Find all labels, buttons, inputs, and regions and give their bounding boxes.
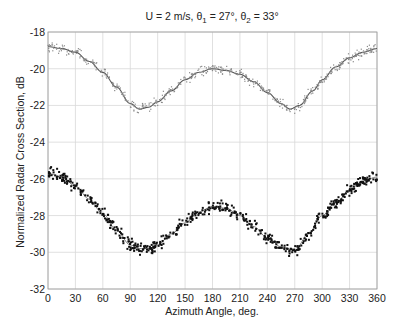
x-tick: 0 xyxy=(45,292,51,304)
y-tick: -26 xyxy=(30,173,45,185)
x-tick: 150 xyxy=(176,292,194,304)
x-tick: 270 xyxy=(286,292,304,304)
y-tick: -24 xyxy=(30,136,45,148)
x-tick: 30 xyxy=(70,292,82,304)
x-tick: 300 xyxy=(313,292,331,304)
y-tick: -20 xyxy=(30,63,45,75)
y-tick: -32 xyxy=(30,283,45,295)
x-tick: 330 xyxy=(341,292,359,304)
chart: 0306090120150180210240270300330360 -32-3… xyxy=(0,0,400,330)
x-axis-label: Azimuth Angle, deg. xyxy=(165,305,258,317)
x-tick: 90 xyxy=(124,292,136,304)
y-tick: -22 xyxy=(30,99,45,111)
x-tick: 180 xyxy=(204,292,222,304)
x-tick: 360 xyxy=(368,292,386,304)
y-tick: -28 xyxy=(30,210,45,222)
x-tick: 240 xyxy=(259,292,277,304)
chart-title: U = 2 m/s, θ1 = 27°, θ2 = 33° xyxy=(145,10,278,25)
x-tick-labels: 0306090120150180210240270300330360 xyxy=(45,292,386,304)
x-tick: 60 xyxy=(97,292,109,304)
y-tick: -30 xyxy=(30,246,45,258)
x-tick: 210 xyxy=(231,292,249,304)
y-tick-labels: -32-30-28-26-24-22-20-18 xyxy=(30,26,45,295)
x-tick: 120 xyxy=(149,292,167,304)
y-tick: -18 xyxy=(30,26,45,38)
y-axis-label: Normalized Radar Cross Section, dB xyxy=(14,76,26,248)
